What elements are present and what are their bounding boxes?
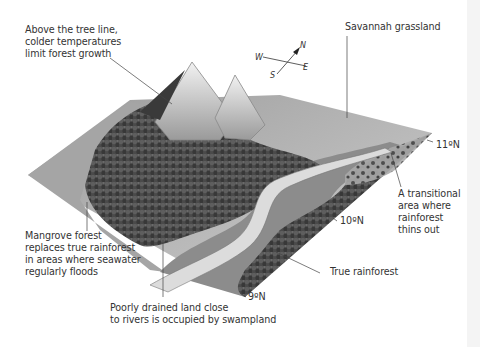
compass-e: E — [303, 63, 309, 72]
compass-rose: N E S W — [255, 41, 309, 80]
label-tree-line: Above the tree line, colder temperatures… — [25, 24, 121, 60]
label-true-rainforest: True rainforest — [330, 266, 398, 278]
compass-w: W — [255, 53, 264, 62]
latitude-11n: 11ºN — [436, 139, 460, 150]
latitude-9n: 9ºN — [248, 291, 266, 302]
latitude-10n: 10ºN — [340, 215, 364, 226]
compass-s: S — [270, 71, 275, 80]
label-mangrove: Mangrove forest replaces true rainforest… — [25, 230, 141, 278]
label-swampland: Poorly drained land close to rivers is o… — [110, 302, 276, 326]
compass-n: N — [300, 41, 306, 50]
label-savannah: Savannah grassland — [345, 21, 441, 33]
label-transitional: A transitional area where rainforest thi… — [398, 188, 460, 236]
